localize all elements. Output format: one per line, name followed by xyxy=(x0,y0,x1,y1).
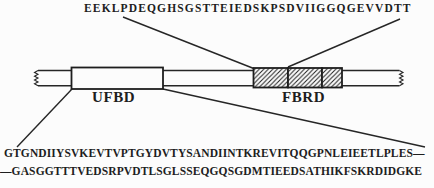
left-break-zigzag xyxy=(35,71,39,86)
fbrd-segment-3 xyxy=(322,68,342,88)
callout-line-top-left xyxy=(123,17,255,69)
fbrd-label: FBRD xyxy=(282,89,325,106)
ufbd-domain-box xyxy=(72,68,164,90)
ufbd-sequence-line2: —GASGGTTTVEDSRPVDTLSGLSSEQGQSGDMTIEEDSAT… xyxy=(0,165,422,177)
fbrd-segment-2 xyxy=(288,68,322,88)
ufbd-label: UFBD xyxy=(92,89,135,106)
fbrd-segment-1 xyxy=(254,68,289,88)
ufbd-sequence-line1: GTGNDIIYSVKEVTVPTGYDVTYSANDIINTKREVITQQG… xyxy=(4,147,425,159)
callout-line-bottom-left xyxy=(17,89,72,147)
right-break-zigzag xyxy=(400,71,404,86)
protein-domain-figure: EEKLPDEQGHSGSTTEIEDSKPSDVIIGGQGEVVDTT UF… xyxy=(0,0,434,188)
callout-line-top-right xyxy=(288,19,400,67)
protein-schematic xyxy=(0,0,434,188)
